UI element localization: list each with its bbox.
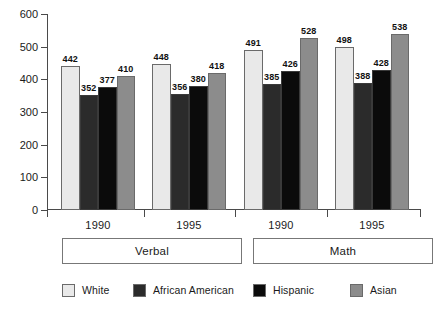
legend-label: White	[82, 284, 109, 296]
legend-item: Hispanic	[253, 281, 314, 299]
legend-swatch-icon	[350, 284, 363, 297]
bar-value-label: 491	[240, 39, 267, 48]
plot-area: 4423523774104483563804184913854265284983…	[47, 14, 421, 210]
bar	[300, 38, 319, 210]
y-axis-tick-label: 200	[0, 140, 38, 151]
section-box-verbal: Verbal	[62, 238, 242, 264]
bar-chart: 6005004003002001000 1990199519901995 442…	[0, 0, 448, 318]
x-axis-tick	[327, 210, 328, 217]
chart-legend: WhiteAfrican AmericanHispanicAsian	[0, 281, 448, 301]
bar	[189, 86, 208, 210]
legend-swatch-icon	[62, 284, 75, 297]
bar-value-label: 528	[296, 27, 323, 36]
x-axis-tick	[235, 210, 236, 217]
y-axis-tick-label: 300	[0, 107, 38, 118]
bar-value-label: 442	[57, 55, 84, 64]
bar	[281, 71, 300, 210]
x-axis-tick	[144, 210, 145, 217]
legend-label: Asian	[370, 284, 397, 296]
legend-swatch-icon	[133, 284, 146, 297]
x-axis-tick	[420, 210, 421, 217]
x-axis-tick	[47, 210, 48, 217]
section-box-math: Math	[253, 238, 433, 264]
bar-value-label: 410	[113, 65, 140, 74]
bar	[263, 84, 282, 210]
bar	[80, 95, 99, 210]
legend-item: White	[62, 281, 109, 299]
y-axis-tick-label: 0	[0, 205, 38, 216]
bar	[171, 94, 190, 210]
bar	[391, 34, 410, 210]
y-axis-tick-label: 100	[0, 172, 38, 183]
bar-value-label: 418	[204, 62, 231, 71]
legend-item: African American	[133, 281, 234, 299]
legend-swatch-icon	[253, 284, 266, 297]
bar	[372, 70, 391, 210]
y-axis-tick-label: 500	[0, 42, 38, 53]
bar	[117, 76, 136, 210]
x-axis-group-label: 1990	[68, 219, 128, 231]
legend-label: Hispanic	[273, 284, 314, 296]
bar	[98, 87, 117, 210]
legend-item: Asian	[350, 281, 397, 299]
bar-value-label: 538	[387, 23, 414, 32]
bar	[208, 73, 227, 210]
y-axis-tick-label: 400	[0, 74, 38, 85]
bar	[354, 83, 373, 210]
bar-value-label: 448	[148, 53, 175, 62]
x-axis-group-label: 1995	[342, 219, 402, 231]
bar-value-label: 498	[331, 36, 358, 45]
x-axis-group-label: 1995	[159, 219, 219, 231]
y-axis-tick-label: 600	[0, 9, 38, 20]
legend-label: African American	[153, 284, 234, 296]
x-axis-group-label: 1990	[251, 219, 311, 231]
